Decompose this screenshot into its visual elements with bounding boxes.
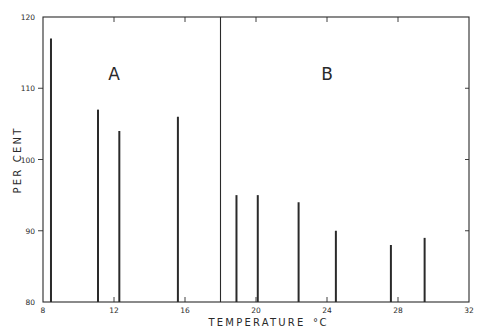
data-bars — [51, 38, 425, 302]
x-axis-unit: °C — [313, 317, 328, 328]
panel-label-b: B — [321, 64, 333, 84]
panel-label-a: A — [108, 64, 120, 84]
y-axis-label: PER CENT — [12, 127, 23, 194]
x-tick-label: 28 — [393, 306, 403, 315]
bar-chart: 81216202428328090100110120 A B TEMPERATU… — [0, 0, 481, 335]
y-tick-label: 110 — [21, 84, 36, 93]
x-tick-label: 16 — [180, 306, 190, 315]
y-tick-label: 90 — [25, 227, 35, 236]
plot-border — [43, 17, 469, 302]
x-tick-label: 32 — [464, 306, 474, 315]
y-tick-label: 80 — [25, 298, 35, 307]
x-tick-label: 20 — [251, 306, 261, 315]
x-tick-label: 12 — [109, 306, 119, 315]
y-tick-label: 120 — [21, 13, 36, 22]
plot-frame — [43, 17, 469, 302]
x-axis-label: TEMPERATURE — [208, 317, 306, 328]
x-tick-label: 8 — [41, 306, 46, 315]
x-tick-label: 24 — [322, 306, 332, 315]
axis-ticks: 81216202428328090100110120 — [21, 13, 474, 315]
